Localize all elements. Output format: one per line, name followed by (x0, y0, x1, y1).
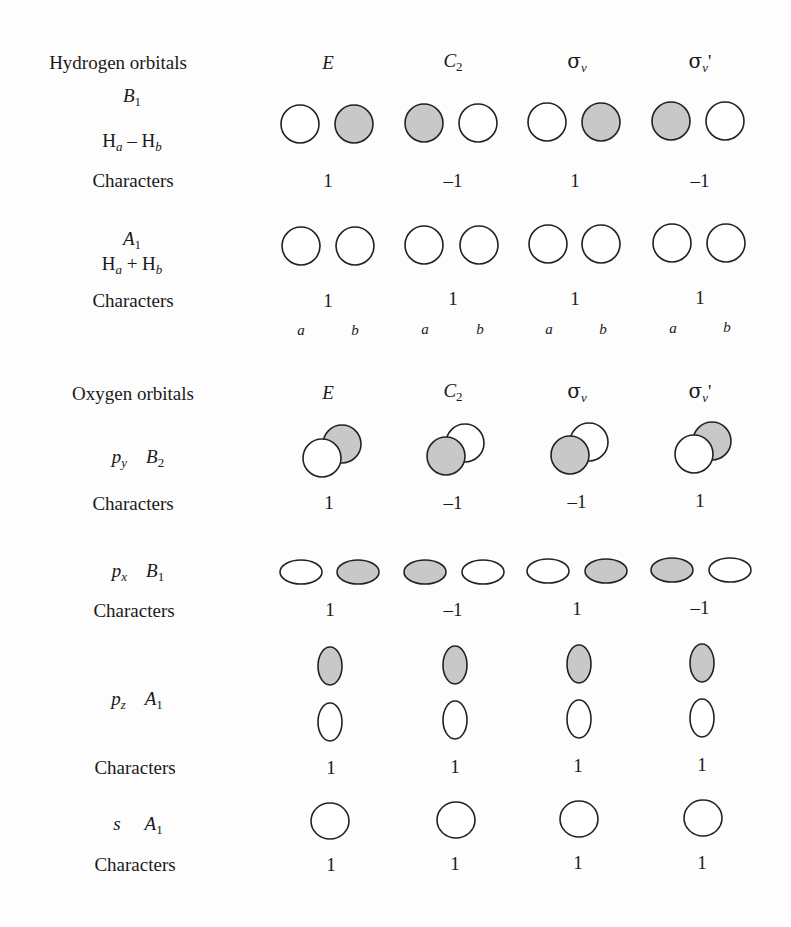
pz-orbital-E (318, 647, 342, 741)
py-orbital-sigma-v (551, 423, 608, 474)
px-orbital-sigma-v-prime (651, 558, 751, 582)
orbital-drawings (0, 0, 791, 927)
py-orbital-C2 (427, 424, 484, 475)
s-orbital-sigma-v (560, 801, 598, 837)
s-orbital-E (311, 803, 349, 839)
px-orbital-sigma-v (527, 559, 627, 583)
py-orbital-sigma-v-prime (675, 422, 731, 473)
a1-orbitals-C2 (405, 226, 498, 264)
b1-orbitals-C2 (405, 104, 497, 142)
pz-orbital-sigma-v (567, 645, 591, 738)
pz-orbital-sigma-v-prime (690, 644, 714, 737)
s-orbital-C2 (437, 802, 475, 838)
s-orbital-sigma-v-prime (684, 800, 722, 836)
a1-orbitals-sigma-v-prime (653, 224, 745, 262)
b1-orbitals-sigma-v (528, 103, 620, 141)
a1-orbitals-sigma-v (529, 225, 620, 263)
a1-orbitals-E (282, 227, 374, 265)
py-orbital-E (303, 425, 361, 477)
px-orbital-C2 (404, 560, 504, 584)
b1-orbitals-sigma-v-prime (652, 102, 744, 140)
symmetry-orbitals-figure: Hydrogen orbitals E C2 σv σv' B1 Ha – Hb… (0, 0, 791, 927)
px-orbital-E (280, 560, 379, 584)
pz-orbital-C2 (443, 646, 467, 739)
b1-orbitals-E (281, 105, 373, 143)
